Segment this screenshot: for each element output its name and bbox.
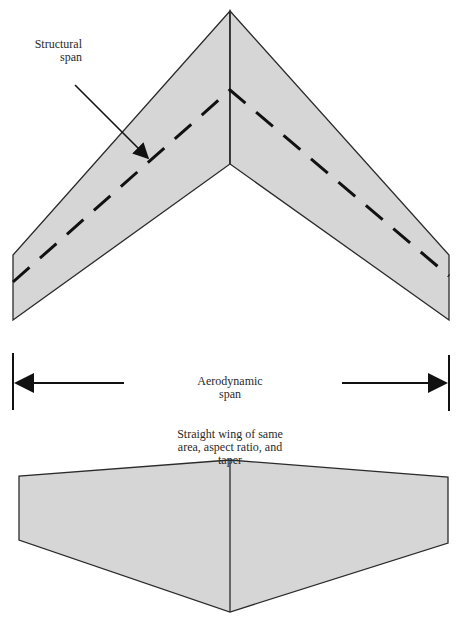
straight-wing-shape <box>19 460 448 612</box>
straight-wing <box>19 460 448 612</box>
aerodynamic-span-label-line2: span <box>180 388 280 401</box>
straight-wing-label-line3: taper <box>160 454 300 467</box>
straight-wing-label: Straight wing of same area, aspect ratio… <box>160 428 300 467</box>
swept-wing-right-panel <box>230 11 449 320</box>
structural-span-label-line2: span <box>20 51 82 64</box>
structural-span-label: Structural span <box>20 38 82 64</box>
wing-diagram <box>0 0 463 625</box>
aerodynamic-span-label: Aerodynamic span <box>180 375 280 401</box>
